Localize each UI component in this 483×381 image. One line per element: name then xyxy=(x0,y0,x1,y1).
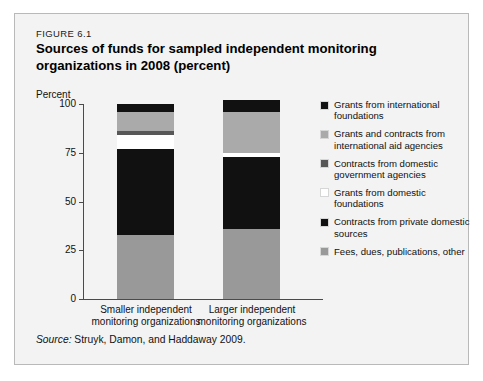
y-tick-mark xyxy=(79,250,83,251)
legend-item: Contracts from domestic government agenc… xyxy=(320,158,470,181)
figure-title: Sources of funds for sampled independent… xyxy=(36,41,431,74)
legend-swatch-icon xyxy=(320,130,329,139)
y-tick-label: 75 xyxy=(36,147,76,158)
figure-card: FIGURE 6.1 Sources of funds for sampled … xyxy=(14,13,469,365)
legend-swatch-icon xyxy=(320,188,329,197)
legend-swatch-icon xyxy=(320,101,329,110)
y-tick-label: 25 xyxy=(36,244,76,255)
legend-swatch-icon xyxy=(320,247,329,256)
x-axis-label-smaller: Smaller independentmonitoring organizati… xyxy=(86,304,206,327)
legend-label: Grants from domestic foundations xyxy=(334,187,470,210)
y-tick-mark xyxy=(79,104,83,105)
bar-segment xyxy=(117,135,174,149)
legend-item: Grants and contracts from international … xyxy=(320,128,470,151)
chart-plot-area: 0255075100 Smaller independentmonitoring… xyxy=(58,102,323,300)
bar-segment xyxy=(117,112,174,132)
legend-label: Grants and contracts from international … xyxy=(334,128,470,151)
x-axis-label-line: Smaller independent xyxy=(86,304,206,316)
source-note: Source: Struyk, Damon, and Haddaway 2009… xyxy=(36,334,246,345)
legend-label: Contracts from domestic government agenc… xyxy=(334,158,470,181)
bar-segment xyxy=(223,157,280,229)
bar-segment xyxy=(117,149,174,235)
chart-legend: Grants from international foundationsGra… xyxy=(320,99,470,263)
y-axis-line xyxy=(83,104,84,300)
legend-item: Fees, dues, publications, other xyxy=(320,246,470,257)
x-axis-label-line: Larger independent xyxy=(192,304,312,316)
legend-label: Fees, dues, publications, other xyxy=(334,246,465,257)
legend-label: Grants from international foundations xyxy=(334,99,470,122)
y-tick-mark xyxy=(79,202,83,203)
y-tick-mark xyxy=(79,299,83,300)
y-tick-label: 50 xyxy=(36,196,76,207)
bar-segment xyxy=(223,112,280,153)
legend-swatch-icon xyxy=(320,218,329,227)
figure-number: FIGURE 6.1 xyxy=(36,28,92,39)
bar-segment xyxy=(223,100,280,112)
bar-segment xyxy=(223,229,280,299)
x-axis-line xyxy=(83,299,323,300)
legend-item: Contracts from private domestic sources xyxy=(320,216,470,239)
legend-item: Grants from international foundations xyxy=(320,99,470,122)
bar-smaller-independent xyxy=(117,104,174,299)
y-tick-mark xyxy=(79,153,83,154)
source-note-text: Struyk, Damon, and Haddaway 2009. xyxy=(72,334,246,345)
legend-label: Contracts from private domestic sources xyxy=(334,216,470,239)
bar-segment xyxy=(117,104,174,112)
legend-swatch-icon xyxy=(320,159,329,168)
source-note-prefix: Source: xyxy=(36,334,72,345)
x-axis-label-line: monitoring organizations xyxy=(86,316,206,328)
x-axis-label-line: monitoring organizations xyxy=(192,316,312,328)
x-axis-label-larger: Larger independentmonitoring organizatio… xyxy=(192,304,312,327)
y-tick-label: 0 xyxy=(36,293,76,304)
bar-larger-independent xyxy=(223,100,280,299)
legend-item: Grants from domestic foundations xyxy=(320,187,470,210)
y-tick-label: 100 xyxy=(36,98,76,109)
bar-segment xyxy=(117,235,174,299)
